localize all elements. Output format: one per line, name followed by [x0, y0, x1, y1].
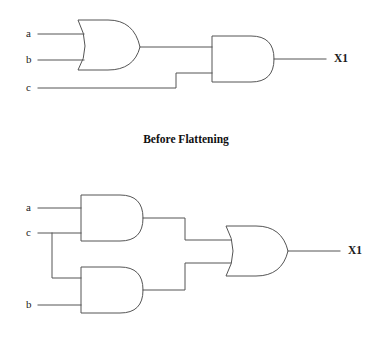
output-label-x1-bottom: X1 — [348, 244, 362, 256]
logic-circuit-figure: a b c X1 Before Flattening a c b — [0, 0, 373, 353]
wire-and2-to-or2 — [143, 218, 231, 240]
input-label-b-top: b — [26, 53, 32, 65]
figure-caption: Before Flattening — [143, 133, 229, 146]
wire-c-branch-to-and3 — [52, 233, 81, 278]
circuit-before-flattening: a b c X1 — [26, 20, 348, 93]
or-gate-2 — [226, 226, 288, 276]
input-label-c-bottom: c — [26, 226, 31, 238]
input-label-c-top: c — [26, 81, 31, 93]
output-label-x1-top: X1 — [334, 52, 348, 64]
wire-input-c-top — [38, 73, 212, 88]
and-gate-2 — [81, 195, 143, 241]
input-label-a-bottom: a — [26, 201, 31, 213]
and-gate-1 — [212, 36, 274, 82]
wire-and3-to-or2 — [143, 263, 231, 290]
input-label-a-top: a — [26, 27, 31, 39]
and-gate-3 — [81, 267, 143, 313]
or-gate-1 — [78, 20, 140, 70]
input-label-b-bottom: b — [26, 298, 32, 310]
circuit-after-flattening: a c b X1 — [26, 195, 362, 313]
